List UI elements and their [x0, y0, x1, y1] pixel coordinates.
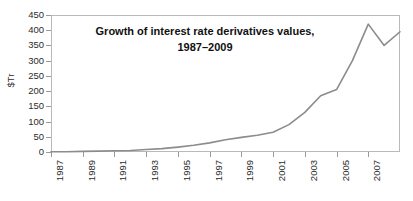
x-axis-tick-mark [210, 152, 211, 157]
x-axis-tick-mark [146, 152, 147, 157]
x-axis-tick-label: 1987 [55, 160, 65, 181]
x-axis-tick-mark [51, 152, 52, 157]
x-axis-tick-label: 1999 [245, 160, 255, 181]
y-axis-tick-label: 250 [28, 71, 44, 81]
y-axis-tick-label: 300 [28, 56, 44, 66]
chart-title: Growth of interest rate derivatives valu… [60, 24, 350, 56]
chart-screenshot: $Tr 050100150200250300350400450 19871989… [0, 0, 413, 201]
x-axis-tick-mark [241, 152, 242, 157]
y-axis-tick-label: 450 [28, 10, 44, 20]
x-axis-tick-mark [305, 152, 306, 157]
x-axis-tick-label: 1993 [150, 160, 160, 181]
y-axis-tick-label: 100 [28, 117, 44, 127]
x-axis-tick-label: 2001 [277, 160, 287, 181]
y-axis-tick-labels: 050100150200250300350400450 [20, 15, 48, 152]
x-axis-tick-label: 2005 [341, 160, 351, 181]
y-axis-tick-label: 200 [28, 86, 44, 96]
x-axis-tick-label: 1995 [182, 160, 192, 181]
y-axis-tick-label: 350 [28, 41, 44, 51]
y-axis-title-label: $Tr [6, 73, 17, 87]
y-axis-title: $Tr [0, 0, 22, 160]
x-axis-tick-mark [337, 152, 338, 157]
x-axis-tick-label: 1991 [118, 160, 128, 181]
x-axis-tick-mark [368, 152, 369, 157]
y-axis-tick-label: 0 [39, 147, 44, 157]
x-axis-tick-mark [178, 152, 179, 157]
chart-title-line-2: 1987–2009 [60, 40, 350, 56]
x-axis-tick-mark [273, 152, 274, 157]
y-axis-tick-label: 50 [33, 132, 44, 142]
x-axis-tick-label: 1997 [214, 160, 224, 181]
x-axis-tick-label: 2003 [309, 160, 319, 181]
y-axis-tick-label: 150 [28, 102, 44, 112]
x-axis-tick-label: 2007 [372, 160, 382, 181]
chart-title-line-1: Growth of interest rate derivatives valu… [96, 25, 315, 37]
x-axis-tick-label: 1989 [87, 160, 97, 181]
x-axis-tick-mark [114, 152, 115, 157]
y-axis-tick-label: 400 [28, 25, 44, 35]
x-axis-tick-mark [83, 152, 84, 157]
